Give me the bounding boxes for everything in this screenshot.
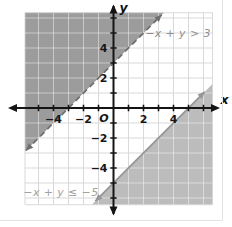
x-tick-label--4: −4 <box>45 113 62 126</box>
origin-label: O <box>99 112 108 125</box>
inequality-label-2: −x + y ≤ −5 <box>23 186 98 199</box>
x-axis-left-arrow <box>8 104 17 112</box>
x-axis-label: x <box>220 92 230 107</box>
graph-card: −4−224−4−224Oxy−x + y > 3−x + y ≤ −5 <box>0 0 232 227</box>
inequality-label-1: −x + y > 3 <box>145 27 211 40</box>
x-tick-label--2: −2 <box>75 113 92 126</box>
y-tick-label--4: −4 <box>91 162 108 175</box>
y-tick-label-4: 4 <box>100 42 108 55</box>
inequality-system-graph: −4−224−4−224Oxy−x + y > 3−x + y ≤ −5 <box>0 0 232 227</box>
x-tick-label-4: 4 <box>170 113 178 126</box>
y-axis-down-arrow <box>110 207 118 216</box>
y-tick-label-2: 2 <box>100 72 108 85</box>
x-axis-right-arrow <box>211 104 220 112</box>
y-axis-up-arrow <box>110 5 118 14</box>
y-tick-label--2: −2 <box>91 132 108 145</box>
x-tick-label-2: 2 <box>140 113 148 126</box>
y-axis-label: y <box>120 0 129 15</box>
